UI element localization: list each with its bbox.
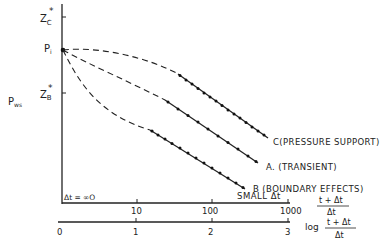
ratio-numerator-upper: t + Δt	[319, 196, 343, 205]
tick-label-3: 3	[285, 227, 290, 237]
tick-label-2: 2	[208, 227, 213, 237]
pressure-buildup-chart: ZC * Pi ZB * Pws 10 100 1000 Δt = ∞O SMA…	[0, 0, 387, 245]
ratio-denominator-upper: Δt	[327, 208, 336, 217]
curve-a-label: A. (TRANSIENT)	[266, 162, 337, 172]
zb-star: *	[48, 83, 53, 93]
curve-b-dashed	[63, 50, 150, 130]
tick-label-1: 1	[133, 227, 138, 237]
y-axis-label: Pws	[8, 96, 22, 108]
tick-label-100: 100	[202, 206, 218, 216]
tick-label-1000: 1000	[280, 206, 302, 216]
dt-infinity-label: Δt = ∞O	[64, 193, 95, 202]
tick-label-0: 0	[57, 227, 62, 237]
curve-a-dashed	[63, 50, 165, 100]
log-label: log	[305, 222, 319, 232]
curve-b-label: B (BOUNDARY EFFECTS)	[253, 184, 364, 194]
curve-c-dashed	[63, 49, 180, 75]
ratio-denominator-lower: Δt	[335, 231, 344, 240]
ratio-numerator-lower: t + Δt	[327, 218, 351, 227]
pi-label: Pi	[44, 43, 52, 55]
zc-star: *	[49, 6, 54, 16]
curve-c-points	[179, 74, 266, 137]
tick-label-10: 10	[131, 206, 142, 216]
curve-c-label: C(PRESSURE SUPPORT)	[273, 137, 380, 147]
